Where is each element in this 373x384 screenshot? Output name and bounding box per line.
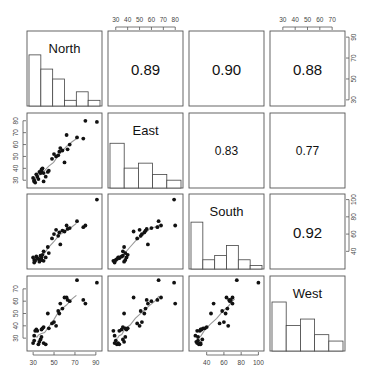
histogram-panel-west: West [270,276,345,351]
histogram-bar [315,335,329,351]
histogram-bar [300,319,314,351]
histogram-bar [29,55,41,106]
data-point [226,324,230,328]
axis-tick-label: 40 [124,16,132,23]
data-point [122,312,126,316]
data-point [113,334,117,338]
histogram-bar [250,265,262,269]
variable-name-label: West [293,286,323,301]
histogram-bar [286,325,300,351]
histogram-panel-north: North [27,31,102,106]
data-point [138,324,142,328]
axis-tick-label: 60 [350,230,357,238]
data-point [196,335,200,339]
data-point [235,278,239,282]
axis-tick-label: 100 [253,359,264,366]
data-point [47,251,51,255]
data-point [58,243,62,247]
data-point [144,307,148,311]
data-point [95,120,99,124]
axis-tick-label: 30 [12,334,19,342]
histogram-bar [138,163,152,188]
correlation-value: 0.89 [131,61,160,78]
data-point [157,278,161,282]
histogram-bar [272,302,286,351]
data-point [63,161,67,165]
data-point [42,249,46,253]
data-point [65,224,69,228]
data-point [159,224,163,228]
histogram-bar [191,222,203,269]
histogram-bar [65,100,77,106]
data-point [81,137,85,141]
histogram-bar [215,256,227,269]
data-point [37,177,41,181]
data-point [122,245,126,249]
data-point [135,237,139,241]
data-point [218,322,222,326]
correlation-panel-south-east: 0.83 [189,113,264,188]
scatter-panel-west-vs-east [108,276,183,351]
data-point [142,312,146,316]
axis-tick-label: 40 [350,247,357,255]
axis-tick-label: 70 [12,129,19,137]
axis-tick-label: 70 [329,16,337,23]
histogram-panel-south: South [189,194,264,269]
scatter-panel-west-vs-north [27,276,102,351]
data-point [224,312,228,316]
data-point [54,324,58,328]
scatter-panel-south-vs-north [27,194,102,269]
histogram-bar [110,143,124,188]
correlation-panel-south-north: 0.90 [189,31,264,106]
histogram-bar [53,79,65,106]
data-point [52,320,56,324]
panel-frame [27,276,102,351]
data-point [42,171,46,175]
data-point [199,342,203,346]
data-point [63,230,67,234]
axis-tick-label: 30 [279,16,287,23]
data-point [32,339,36,343]
correlation-value: 0.83 [215,144,239,158]
data-point [195,341,199,345]
data-point [41,166,45,170]
data-point [145,227,149,231]
histogram-panel-east: East [108,113,183,188]
data-point [58,302,62,306]
axis-tick-label: 50 [304,16,312,23]
data-point [150,226,154,230]
data-point [68,143,72,147]
data-point [84,224,88,228]
data-point [173,302,177,306]
axis-tick-label: 70 [12,285,19,293]
data-point [54,228,58,232]
data-point [156,298,160,302]
data-point [139,234,143,238]
data-point [50,237,54,241]
axis-tick-label: 80 [172,16,180,23]
axis-tick-label: 50 [350,75,357,83]
axis-tick-label: 80 [238,359,246,366]
data-point [52,232,56,236]
axis-tick-label: 90 [92,359,100,366]
data-point [132,296,136,300]
correlation-panel-west-south: 0.92 [270,194,345,269]
histogram-bar [203,260,215,269]
data-point [44,175,48,179]
correlation-value: 0.90 [212,61,241,78]
data-point [41,253,45,257]
data-point [47,326,51,330]
axis-tick-label: 50 [136,16,144,23]
axis-tick-label: 100 [350,194,357,205]
data-point [156,225,160,229]
data-point [117,342,121,346]
data-point [75,219,79,223]
data-point [42,259,46,263]
data-point [44,342,48,346]
data-point [159,296,163,300]
data-point [222,320,226,324]
data-point [68,226,72,230]
data-point [220,309,224,313]
data-point [42,180,46,184]
data-point [66,147,70,151]
